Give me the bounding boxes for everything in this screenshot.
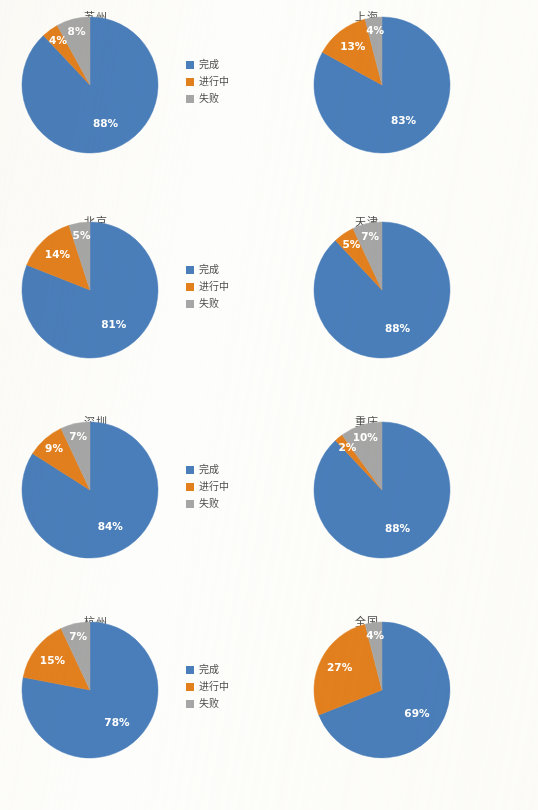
legend-item[interactable]: 进行中 <box>186 482 229 492</box>
pie-slice-label: 4% <box>366 629 384 641</box>
chart-legend: 完成进行中失败 <box>186 665 229 709</box>
pie-graphic: 84%9%7% <box>18 418 162 562</box>
pie-slice-label: 83% <box>391 114 417 126</box>
legend-swatch-icon <box>186 483 194 491</box>
legend-swatch-icon <box>186 500 194 508</box>
pie-chart-panel: 杭州78%15%7%完成进行中失败 <box>0 605 269 810</box>
pie-slice-label: 5% <box>342 238 360 250</box>
legend-item-label: 失败 <box>199 699 219 709</box>
pie-graphic: 69%27%4% <box>310 618 454 762</box>
legend-item[interactable]: 完成 <box>186 265 229 275</box>
legend-swatch-icon <box>186 666 194 674</box>
pie-slice-label: 13% <box>340 40 366 52</box>
pie-graphic: 78%15%7% <box>18 618 162 762</box>
legend-item-label: 进行中 <box>199 682 229 692</box>
legend-swatch-icon <box>186 683 194 691</box>
pie-graphic: 88%4%8% <box>18 13 162 157</box>
pie-chart-panel: 上海83%13%4%完成进行中失败 <box>269 0 538 205</box>
pie-slice-label: 81% <box>101 318 127 330</box>
legend-item[interactable]: 完成 <box>186 60 229 70</box>
legend-swatch-icon <box>186 95 194 103</box>
pie-slice-label: 4% <box>366 24 384 36</box>
chart-legend: 完成进行中失败 <box>186 60 229 104</box>
pie-slice-label: 5% <box>73 229 91 241</box>
pie-slice-label: 88% <box>93 117 119 129</box>
pie-slice-label: 10% <box>353 431 379 443</box>
legend-swatch-icon <box>186 61 194 69</box>
pie-slice-label: 7% <box>69 630 87 642</box>
legend-item[interactable]: 完成 <box>186 665 229 675</box>
legend-swatch-icon <box>186 466 194 474</box>
legend-item-label: 完成 <box>199 465 219 475</box>
legend-item-label: 失败 <box>199 299 219 309</box>
legend-swatch-icon <box>186 700 194 708</box>
pie-chart-panel: 天津88%5%7%完成进行中失败 <box>269 205 538 405</box>
chart-legend: 完成进行中失败 <box>186 265 229 309</box>
legend-swatch-icon <box>186 300 194 308</box>
legend-item[interactable]: 进行中 <box>186 282 229 292</box>
pie-chart-grid: 苏州88%4%8%完成进行中失败上海83%13%4%完成进行中失败北京81%14… <box>0 0 538 810</box>
legend-item-label: 失败 <box>199 499 219 509</box>
pie-slice-label: 88% <box>385 522 411 534</box>
legend-item-label: 完成 <box>199 60 219 70</box>
chart-legend: 完成进行中失败 <box>186 465 229 509</box>
pie-graphic: 83%13%4% <box>310 13 454 157</box>
legend-item[interactable]: 进行中 <box>186 682 229 692</box>
pie-slice-label: 14% <box>45 248 71 260</box>
pie-graphic: 88%5%7% <box>310 218 454 362</box>
pie-slice-label: 7% <box>361 230 379 242</box>
pie-slice-label: 27% <box>327 661 353 673</box>
pie-chart-panel: 北京81%14%5%完成进行中失败 <box>0 205 269 405</box>
pie-chart-panel: 全国69%27%4%完成进行中失败 <box>269 605 538 810</box>
legend-item-label: 完成 <box>199 265 219 275</box>
pie-graphic: 88%2%10% <box>310 418 454 562</box>
legend-item-label: 进行中 <box>199 77 229 87</box>
legend-item[interactable]: 失败 <box>186 699 229 709</box>
legend-item-label: 完成 <box>199 665 219 675</box>
pie-slice-label: 7% <box>69 430 87 442</box>
legend-item-label: 进行中 <box>199 282 229 292</box>
pie-graphic: 81%14%5% <box>18 218 162 362</box>
pie-chart-panel: 苏州88%4%8%完成进行中失败 <box>0 0 269 205</box>
legend-swatch-icon <box>186 78 194 86</box>
pie-slice-label: 69% <box>404 707 430 719</box>
legend-item-label: 失败 <box>199 94 219 104</box>
legend-item[interactable]: 失败 <box>186 499 229 509</box>
legend-swatch-icon <box>186 283 194 291</box>
pie-slice-label: 88% <box>385 322 411 334</box>
pie-slice-label: 4% <box>49 34 67 46</box>
legend-item[interactable]: 失败 <box>186 299 229 309</box>
legend-swatch-icon <box>186 266 194 274</box>
pie-slice-label: 84% <box>98 520 124 532</box>
pie-slice-label: 9% <box>45 442 63 454</box>
pie-chart-panel: 深圳84%9%7%完成进行中失败 <box>0 405 269 605</box>
legend-item[interactable]: 进行中 <box>186 77 229 87</box>
pie-chart-panel: 重庆88%2%10%完成进行中失败 <box>269 405 538 605</box>
pie-slice-label: 15% <box>40 654 66 666</box>
pie-slice-label: 8% <box>68 25 86 37</box>
legend-item[interactable]: 完成 <box>186 465 229 475</box>
legend-item-label: 进行中 <box>199 482 229 492</box>
legend-item[interactable]: 失败 <box>186 94 229 104</box>
pie-slice-label: 78% <box>104 716 130 728</box>
